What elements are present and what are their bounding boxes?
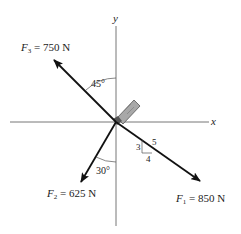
force-f1-arrow: [116, 122, 200, 181]
svg-text:5: 5: [152, 137, 157, 147]
y-axis-label: y: [112, 12, 118, 24]
angle-45-label: 45°: [91, 78, 105, 89]
force-f3-arrow: [54, 60, 116, 122]
force-f1-label: F1 = 850 N: [175, 192, 225, 206]
bolt-icon: [113, 100, 140, 125]
angle-arc-30: [96, 157, 116, 162]
force-f2-label: F2 = 625 N: [46, 187, 96, 201]
force-diagram: x y 45° 30° 3 4 5 F3 = 750 N F2 = 625 N …: [0, 0, 241, 234]
x-axis-label: x: [210, 115, 216, 127]
slope-triangle: 3 4 5: [136, 137, 157, 164]
force-f3-label: F3 = 750 N: [20, 41, 70, 55]
angle-30-label: 30°: [96, 165, 110, 176]
svg-text:3: 3: [136, 142, 141, 152]
svg-text:4: 4: [146, 154, 151, 164]
